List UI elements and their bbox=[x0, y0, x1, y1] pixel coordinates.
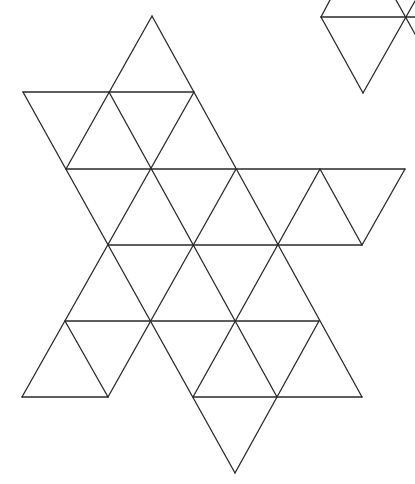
edge-line bbox=[320, 169, 362, 245]
edge-line bbox=[363, 1, 415, 93]
edge-line bbox=[65, 321, 108, 397]
edge-line bbox=[193, 169, 320, 397]
edge-line bbox=[321, 17, 363, 93]
edge-line bbox=[362, 169, 405, 245]
triangle-net-diagram bbox=[0, 0, 415, 484]
edge-line bbox=[23, 92, 235, 473]
edge-line bbox=[152, 16, 362, 397]
edge-line bbox=[108, 169, 236, 397]
edge-line bbox=[321, 0, 330, 17]
